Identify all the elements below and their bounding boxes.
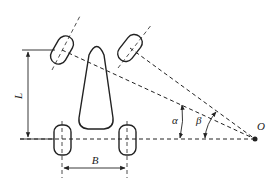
turn-center-point <box>253 137 258 142</box>
steering-diagram: L B α β O <box>0 0 277 194</box>
wheelbase-label: L <box>12 93 24 100</box>
vehicle-body <box>79 47 113 130</box>
front-right-axis-line <box>130 48 255 139</box>
beta-arc <box>205 112 216 138</box>
rear-right-wheel <box>119 125 136 155</box>
alpha-label: α <box>172 114 178 126</box>
front-left-axis-line <box>62 50 255 139</box>
turn-center-label: O <box>257 120 265 132</box>
track-label: B <box>92 154 99 166</box>
beta-label: β <box>195 114 202 126</box>
alpha-arc <box>180 105 183 138</box>
rear-left-wheel <box>54 125 71 155</box>
